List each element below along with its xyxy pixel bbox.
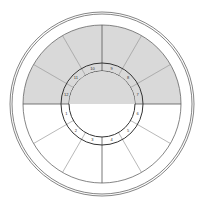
- cusp-line-3: [63, 133, 86, 173]
- cusp-line-2: [34, 121, 74, 144]
- cusp-line-5: [119, 133, 142, 173]
- house-number-6: 6: [137, 111, 140, 116]
- house-number-5: 5: [127, 128, 130, 133]
- house-number-4: 4: [110, 137, 113, 142]
- house-number-1: 1: [65, 111, 68, 116]
- house-number-3: 3: [91, 137, 94, 142]
- chart-wheel: 123456789101112: [0, 0, 204, 212]
- house-number-2: 2: [75, 128, 78, 133]
- cusp-line-6: [131, 121, 171, 144]
- house-number-12: 12: [64, 92, 69, 97]
- house-number-10: 10: [90, 66, 95, 71]
